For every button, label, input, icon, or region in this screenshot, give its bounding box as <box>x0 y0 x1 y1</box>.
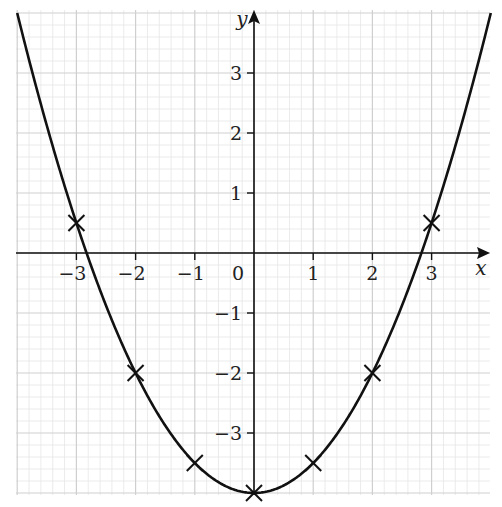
y-tick-label: 2 <box>230 122 242 144</box>
x-tick-label: −3 <box>58 262 86 284</box>
x-tick-label: 1 <box>307 262 319 284</box>
x-tick-label: −1 <box>177 262 205 284</box>
y-tick-label: −2 <box>214 362 242 384</box>
parabola-chart: −3−2−10123−3−2−1123xy <box>0 0 502 507</box>
x-tick-label: 2 <box>366 262 378 284</box>
x-tick-label: −2 <box>118 262 146 284</box>
x-tick-label: 0 <box>232 262 244 284</box>
x-axis-label: x <box>475 256 486 280</box>
y-tick-label: −3 <box>214 422 242 444</box>
y-tick-label: 1 <box>230 182 242 204</box>
y-tick-label: 3 <box>230 62 242 84</box>
y-tick-label: −1 <box>214 302 242 324</box>
x-tick-label: 3 <box>426 262 438 284</box>
y-axis-label: y <box>235 7 248 31</box>
